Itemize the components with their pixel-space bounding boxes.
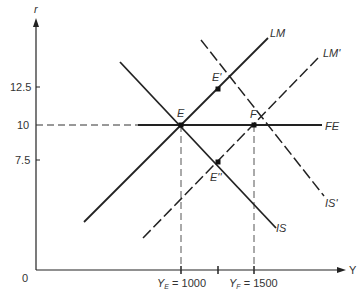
is-curve: [120, 62, 276, 228]
point-e: [179, 123, 184, 128]
lm-label: LM: [270, 27, 286, 39]
y-tick-label-12.5: 12.5: [10, 81, 31, 93]
fe-label: FE: [325, 120, 340, 132]
point-e-prime: [216, 87, 221, 92]
point-e-prime-label: E': [212, 71, 222, 83]
origin-label: 0: [22, 272, 28, 284]
x-tick-label-ye: YE = 1000: [157, 277, 206, 290]
point-e-label: E: [177, 107, 185, 119]
y-axis: [33, 18, 39, 270]
y-tick-label-10: 10: [17, 119, 29, 131]
lm-prime-label: LM': [323, 47, 341, 59]
y-axis-label: r: [34, 3, 39, 15]
point-f-label: F: [250, 108, 258, 120]
point-e-double-prime-label: E'': [210, 171, 222, 183]
lm-prime-curve: [143, 56, 320, 238]
x-tick-label-yf: YF = 1500: [229, 277, 278, 290]
lm-curve: [84, 38, 268, 222]
x-axis: [36, 267, 346, 273]
is-prime-label: IS': [325, 197, 338, 209]
x-axis-label: Y: [349, 264, 357, 276]
is-lm-fe-diagram: r Y 0 12.5 10 7.5 YE = 1000 YF = 1500 LM…: [0, 0, 358, 298]
point-e-double-prime: [216, 160, 221, 165]
point-f: [252, 123, 257, 128]
y-tick-label-7.5: 7.5: [15, 154, 30, 166]
is-label: IS: [276, 222, 287, 234]
